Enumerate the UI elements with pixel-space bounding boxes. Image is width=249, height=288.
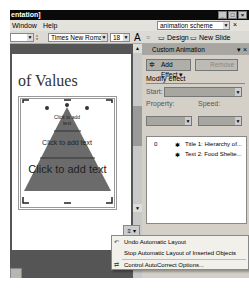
chevron-down-icon[interactable]: ▼ — [235, 117, 241, 125]
close-button[interactable]: × — [238, 11, 247, 19]
selection-handle[interactable] — [85, 106, 89, 110]
chevron-down-icon[interactable]: ▼ — [235, 88, 241, 96]
font-size-value: 18 — [113, 34, 120, 41]
scroll-down-icon[interactable]: ▼ — [133, 204, 142, 212]
selection-handle[interactable] — [65, 103, 69, 107]
window-title: entation] — [11, 11, 41, 18]
autofit-context-menu: ↶ Undo Automatic Layout Stop Automatic L… — [111, 235, 249, 270]
remove-label: Remove — [210, 61, 234, 68]
bullets-icon[interactable]: ≡ — [146, 33, 150, 42]
pyramid-level-1-text[interactable]: Click to add text — [51, 114, 83, 126]
font-size-combo[interactable]: 18 ▼ — [110, 33, 130, 42]
animation-label: Text 2: Food Shelte... — [185, 151, 242, 157]
new-slide-label: New Slide — [199, 34, 231, 41]
autocorrect-icon: ⇄ — [114, 260, 119, 271]
font-name-value: Times New Roman — [51, 34, 106, 41]
design-label: Design — [167, 34, 189, 41]
help-search-input[interactable]: animation scheme ▼ — [157, 21, 230, 30]
chevron-down-icon[interactable]: ▼ — [101, 34, 107, 41]
menu-item-undo-automatic-layout[interactable]: ↶ Undo Automatic Layout — [112, 237, 248, 248]
design-icon: ▭ — [158, 34, 165, 41]
new-slide-icon: ▭ — [190, 34, 197, 41]
speed-dropdown[interactable]: ▼ — [198, 116, 242, 126]
start-dropdown[interactable]: ▼ — [164, 87, 242, 97]
new-slide-button[interactable]: ▭ New Slide — [190, 33, 230, 42]
slide-canvas[interactable]: of Values Click to add text Click — [12, 54, 131, 250]
star-icon: ✱ — [175, 141, 180, 148]
animation-list[interactable]: 0 ✱ Title 1: Hierarchy of... ✱ Text 2: F… — [146, 136, 247, 224]
star-icon: ✱ — [175, 151, 180, 158]
menu-item-stop-automatic-layout[interactable]: Stop Automatic Layout of Inserted Object… — [112, 248, 248, 259]
animation-label: Title 1: Hierarchy of... — [185, 141, 242, 147]
pyramid-level-3-text[interactable]: Click to add text — [21, 163, 114, 175]
style-combo[interactable]: ▼ — [10, 33, 34, 42]
speed-label: Speed: — [198, 100, 220, 107]
design-button[interactable]: ▭ Design — [158, 33, 189, 42]
selection-handle[interactable] — [45, 106, 49, 110]
animation-order: 0 — [154, 141, 157, 147]
close-pane-icon[interactable]: ▾ × — [237, 44, 247, 55]
grow-font-icon[interactable]: A — [134, 33, 141, 43]
menu-window[interactable]: Window — [12, 22, 37, 29]
star-icon: ✲ — [149, 60, 155, 70]
pyramid-diagram[interactable]: Click to add text Click to add text Clic… — [18, 96, 117, 210]
scroll-thumb[interactable] — [133, 106, 142, 146]
pyramid-level-2-text[interactable]: Click to add text — [35, 139, 99, 146]
menu-item-label: Stop Automatic Layout of Inserted Object… — [124, 250, 236, 256]
chevron-down-icon[interactable]: ▼ — [123, 34, 129, 41]
close-document-button[interactable]: × — [233, 21, 237, 28]
add-effect-button[interactable]: ✲ Add Effect ▾ — [146, 59, 191, 71]
pane-header: Custom Animation ▾ × — [142, 44, 249, 55]
slide-title[interactable]: of Values — [18, 72, 78, 90]
pane-title: Custom Animation — [152, 46, 205, 53]
font-name-combo[interactable]: Times New Roman ▼ — [48, 33, 108, 42]
start-label: Start: — [146, 88, 163, 95]
menu-item-label: Undo Automatic Layout — [124, 239, 186, 245]
chevron-down-icon[interactable]: ▼ — [185, 117, 191, 125]
title-bar: entation] _ □ × — [10, 10, 249, 20]
help-search-value: animation scheme — [160, 22, 213, 29]
chevron-down-icon[interactable]: ▼ — [27, 34, 33, 41]
property-label: Property: — [146, 100, 174, 107]
menu-item-control-autocorrect[interactable]: ⇄ Control AutoCorrect Options... — [112, 260, 248, 271]
divider — [146, 83, 245, 84]
formatting-toolbar: ▼ ⁞ Times New Roman ▼ 18 ▼ A ≡ ▭ Design … — [10, 31, 249, 44]
menu-help[interactable]: Help — [43, 22, 57, 29]
toolbar-handle-icon: ⁞ — [36, 33, 38, 42]
menu-item-label: Control AutoCorrect Options... — [124, 262, 204, 268]
autofit-icon: ≡ — [127, 228, 131, 234]
undo-icon: ↶ — [114, 237, 119, 248]
modify-effect-heading: Modify effect — [146, 75, 186, 82]
property-dropdown[interactable]: ▼ — [146, 116, 192, 126]
maximize-button[interactable]: □ — [228, 11, 237, 19]
minimize-button[interactable]: _ — [218, 11, 227, 19]
scroll-up-icon[interactable]: ▲ — [133, 44, 142, 53]
outline-pane-edge[interactable] — [10, 268, 22, 278]
chevron-down-icon[interactable]: ▼ — [223, 22, 229, 29]
menu-bar: Window Help animation scheme ▼ × — [10, 20, 249, 31]
remove-button[interactable]: Remove — [195, 59, 238, 71]
